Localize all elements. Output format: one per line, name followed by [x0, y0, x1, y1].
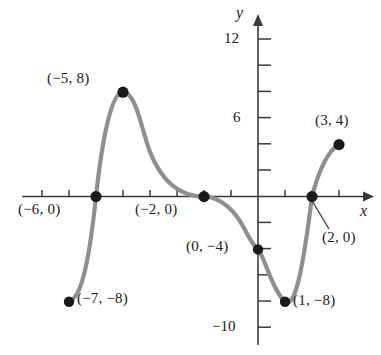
point-label-neg2-0: (−2, 0): [135, 201, 177, 218]
point-label-0-neg4: (0, −4): [186, 238, 228, 255]
y-tick-label-6: 6: [233, 109, 241, 126]
data-point: [198, 191, 209, 202]
data-point: [280, 297, 290, 307]
point-label-neg7-neg8: (−7, −8): [77, 290, 128, 307]
graph-figure: y x 12 6 −10 (−5, 8) (−6, 0) (−2, 0) (−7…: [0, 0, 381, 355]
data-point: [333, 139, 344, 150]
point-label-2-0: (2, 0): [322, 229, 356, 246]
y-axis: [253, 14, 263, 345]
y-tick-label-neg10: −10: [212, 318, 235, 335]
leader-line-2-0: [311, 199, 329, 229]
data-point: [306, 191, 317, 202]
point-label-1-neg8: (1, −8): [293, 292, 335, 309]
point-label-3-4: (3, 4): [315, 112, 349, 129]
y-tick-label-12: 12: [224, 30, 239, 47]
data-point: [117, 87, 128, 98]
y-axis-ticks: [258, 39, 271, 327]
x-axis-label: x: [360, 202, 367, 220]
point-label-neg6-0: (−6, 0): [18, 201, 60, 218]
point-label-neg5-8: (−5, 8): [47, 70, 89, 87]
data-point: [253, 244, 263, 254]
data-point: [64, 297, 74, 307]
data-point: [90, 191, 101, 202]
y-axis-label: y: [236, 4, 243, 22]
